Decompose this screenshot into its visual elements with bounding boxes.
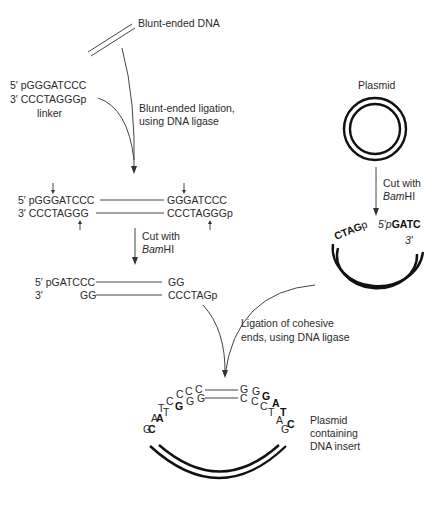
- svg-text:G: G: [281, 423, 289, 435]
- svg-text:C: C: [176, 388, 184, 400]
- cohesive-ligation-label-1: Ligation of cohesive: [241, 317, 334, 329]
- ligated-linker-construct: 5′ pGGGATCCC GGGATCCC 3′ CCCTAGGG CCCTAG…: [18, 183, 233, 230]
- cloning-diagram: Blunt-ended DNA 5′ pGGGATCCC 3′ CCCTAGGG…: [0, 0, 446, 506]
- svg-text:C: C: [240, 392, 248, 404]
- result-label-1: Plasmid: [310, 414, 348, 426]
- cut-label-right: Cut with: [383, 177, 421, 189]
- linker-top-strand: 5′ pGGGATCCC: [10, 79, 87, 91]
- plasmid-circle: [344, 98, 406, 160]
- svg-text:5′ pGGGATCCC: 5′ pGGGATCCC: [18, 194, 95, 206]
- linker-arrow: [98, 98, 134, 160]
- result-label-2: containing: [310, 427, 358, 439]
- svg-text:GG: GG: [80, 289, 96, 301]
- svg-text:G: G: [175, 400, 183, 412]
- blunt-dna-label: Blunt-ended DNA: [138, 17, 220, 29]
- blunt-ligation-label-2: using DNA ligase: [139, 115, 219, 127]
- svg-text:G: G: [143, 423, 151, 435]
- recombinant-plasmid: C G G C CG CG CT TA AC G GC GC AT TA CG: [143, 383, 295, 478]
- blunt-dna-fragment: [88, 24, 135, 56]
- svg-text:5′pGATC: 5′pGATC: [378, 218, 421, 230]
- cut-linker-fragment: 5′ pGATCCC GG 3′ GG CCCTAGp: [35, 276, 218, 301]
- blunt-dna-arrow: [122, 48, 134, 172]
- svg-text:T: T: [268, 406, 275, 418]
- svg-text:G: G: [186, 395, 194, 407]
- svg-text:GG: GG: [168, 276, 184, 288]
- svg-text:3′: 3′: [405, 234, 414, 246]
- fragment-arrow: [203, 305, 225, 375]
- enzyme-label-left: BamHI: [142, 243, 174, 255]
- plasmid-label: Plasmid: [358, 79, 396, 91]
- enzyme-label-right: BamHI: [383, 190, 415, 202]
- cohesive-ligation-label-2: ends, using DNA ligase: [241, 331, 350, 343]
- svg-text:3′: 3′: [35, 289, 43, 301]
- linker-label: linker: [37, 107, 63, 119]
- plasmid-arrow: [225, 285, 315, 375]
- arrow-head-icon: [373, 208, 379, 216]
- svg-text:G: G: [197, 392, 205, 404]
- arrow-head-icon: [131, 166, 137, 174]
- svg-text:5′ pGATCCC: 5′ pGATCCC: [35, 276, 96, 288]
- blunt-ligation-label-1: Blunt-ended ligation,: [139, 102, 235, 114]
- arrow-head-icon: [222, 370, 228, 378]
- svg-text:CCCTAGp: CCCTAGp: [168, 289, 218, 301]
- svg-text:GGGATCCC: GGGATCCC: [167, 194, 227, 206]
- result-label-3: DNA insert: [310, 440, 360, 452]
- svg-text:C: C: [260, 400, 268, 412]
- svg-text:C: C: [251, 395, 259, 407]
- svg-text:3′ CCCTAGGG: 3′ CCCTAGGG: [18, 207, 89, 219]
- arrow-head-icon: [132, 257, 138, 265]
- svg-text:CCCTAGGGp: CCCTAGGGp: [167, 207, 233, 219]
- linker-bottom-strand: 3′ CCCTAGGGp: [10, 93, 87, 105]
- cut-label-left: Cut with: [142, 230, 180, 242]
- svg-text:CTAGp: CTAGp: [332, 218, 369, 242]
- linearized-plasmid: CTAGp 5′pGATC 3′: [332, 218, 423, 289]
